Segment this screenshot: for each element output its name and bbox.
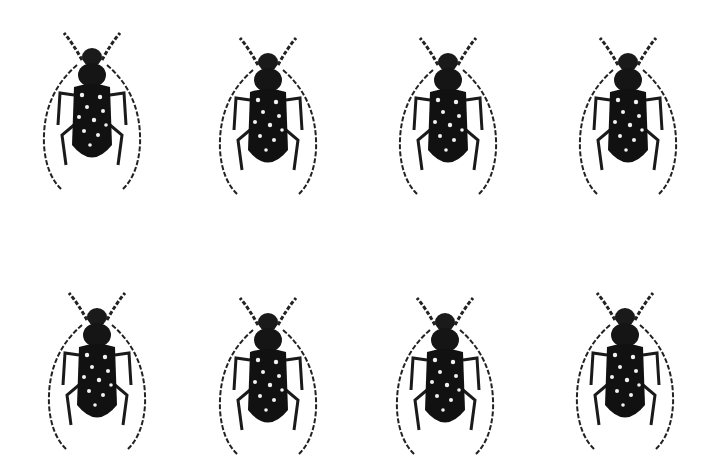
beetle-specimen [568, 30, 688, 200]
beetle-icon [208, 290, 328, 460]
beetle-specimen [32, 25, 152, 195]
beetle-specimen [208, 30, 328, 200]
beetle-specimen [565, 285, 685, 455]
beetle-specimen [208, 290, 328, 460]
beetle-icon [385, 290, 505, 460]
beetle-specimen [37, 285, 157, 455]
beetle-specimen [388, 30, 508, 200]
beetle-icon [388, 30, 508, 200]
beetle-icon [32, 25, 152, 195]
beetle-icon [565, 285, 685, 455]
beetle-icon [37, 285, 157, 455]
beetle-icon [568, 30, 688, 200]
beetle-specimen [385, 290, 505, 460]
beetle-icon [208, 30, 328, 200]
